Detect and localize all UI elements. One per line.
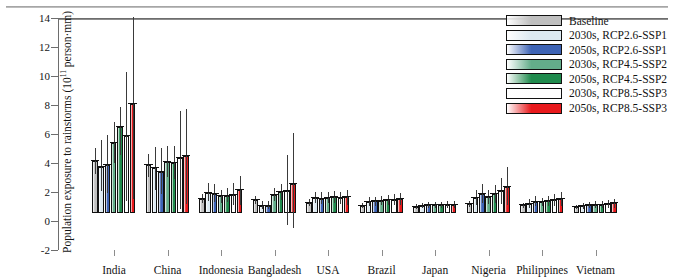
mean-marker bbox=[556, 198, 564, 199]
legend-label: Baseline bbox=[569, 15, 609, 27]
x-axis-label: Philippines bbox=[516, 264, 568, 276]
legend-item[interactable]: 2050s, RCP2.6-SSP1 bbox=[506, 43, 670, 56]
y-axis-title: Population exposure to rainstorms (1011 … bbox=[59, 0, 73, 278]
mean-marker bbox=[144, 164, 152, 165]
mean-marker bbox=[150, 167, 158, 168]
y-tick bbox=[51, 192, 58, 193]
y-axis-title-prefix: Population exposure to rainstorms (10 bbox=[61, 77, 73, 253]
error-bar bbox=[293, 133, 294, 228]
error-bar bbox=[126, 72, 127, 202]
legend-label: 2050s, RCP4.5-SSP2 bbox=[569, 73, 667, 85]
x-axis-label: China bbox=[154, 264, 181, 276]
x-axis-label: Bangladesh bbox=[248, 264, 302, 276]
legend-swatch bbox=[506, 73, 562, 84]
y-tick-label: 12 bbox=[24, 42, 50, 53]
mean-marker bbox=[91, 160, 99, 161]
x-tick bbox=[542, 250, 543, 256]
legend-swatch bbox=[506, 44, 562, 55]
mean-marker bbox=[235, 189, 243, 190]
legend-item[interactable]: Baseline bbox=[506, 14, 670, 27]
legend-label: 2030s, RCP8.5-SSP3 bbox=[569, 87, 667, 99]
x-axis-label: Brazil bbox=[367, 264, 395, 276]
legend-label: 2050s, RCP8.5-SSP3 bbox=[569, 102, 667, 114]
bar-group bbox=[467, 18, 511, 213]
y-tick-label: -2 bbox=[24, 245, 50, 256]
bar-group bbox=[360, 18, 404, 213]
y-tick-label: 4 bbox=[24, 158, 50, 169]
error-bar bbox=[240, 176, 241, 205]
y-tick-label: 8 bbox=[24, 100, 50, 111]
y-axis-title-suffix: person·mm) bbox=[61, 11, 73, 70]
x-axis-label: USA bbox=[317, 264, 340, 276]
mean-marker bbox=[289, 183, 297, 184]
error-bar bbox=[133, 17, 134, 200]
bar-group bbox=[146, 18, 190, 213]
y-tick-label: 0 bbox=[24, 216, 50, 227]
y-tick-label: 14 bbox=[24, 13, 50, 24]
bar-group bbox=[306, 18, 350, 213]
mean-marker bbox=[610, 202, 618, 203]
y-tick bbox=[51, 76, 58, 77]
legend-swatch bbox=[506, 88, 562, 99]
y-tick bbox=[51, 250, 58, 251]
x-axis-label: India bbox=[102, 264, 126, 276]
y-tick-label: 6 bbox=[24, 129, 50, 140]
error-bar bbox=[394, 194, 395, 205]
bar-group bbox=[199, 18, 243, 213]
x-axis-label: Nigeria bbox=[471, 264, 505, 276]
y-tick bbox=[51, 105, 58, 106]
mean-marker bbox=[210, 193, 218, 194]
mean-marker bbox=[342, 196, 350, 197]
mean-marker bbox=[182, 155, 190, 156]
legend-item[interactable]: 2030s, RCP2.6-SSP1 bbox=[506, 29, 670, 42]
mean-marker bbox=[478, 193, 486, 194]
y-tick bbox=[51, 221, 58, 222]
x-tick bbox=[114, 250, 115, 256]
legend-label: 2030s, RCP2.6-SSP1 bbox=[569, 29, 667, 41]
legend-swatch bbox=[506, 59, 562, 70]
x-axis-label: Indonesia bbox=[199, 264, 244, 276]
legend-swatch bbox=[506, 15, 562, 26]
y-tick-label: 10 bbox=[24, 71, 50, 82]
y-axis-line bbox=[58, 18, 59, 250]
error-bar bbox=[120, 107, 121, 155]
legend-item[interactable]: 2030s, RCP4.5-SSP2 bbox=[506, 58, 670, 71]
bar-group bbox=[253, 18, 297, 213]
mean-marker bbox=[251, 199, 259, 200]
error-bar bbox=[501, 178, 502, 204]
y-tick bbox=[51, 134, 58, 135]
mean-marker bbox=[449, 204, 457, 205]
error-bar bbox=[95, 148, 96, 173]
x-tick bbox=[275, 250, 276, 256]
x-tick bbox=[596, 250, 597, 256]
x-tick bbox=[382, 250, 383, 256]
x-tick bbox=[168, 250, 169, 256]
legend-item[interactable]: 2030s, RCP8.5-SSP3 bbox=[506, 87, 670, 100]
x-tick bbox=[221, 250, 222, 256]
legend-item[interactable]: 2050s, RCP8.5-SSP3 bbox=[506, 101, 670, 114]
legend-item[interactable]: 2050s, RCP4.5-SSP2 bbox=[506, 72, 670, 85]
y-axis-title-exponent: 11 bbox=[59, 70, 68, 77]
mean-marker bbox=[128, 103, 136, 104]
plot-area: Population exposure to rainstorms (1011 … bbox=[58, 18, 536, 250]
bar-group bbox=[92, 18, 136, 213]
error-bar bbox=[400, 193, 401, 206]
y-tick-label: 2 bbox=[24, 187, 50, 198]
error-bar bbox=[186, 109, 187, 204]
legend-label: 2030s, RCP4.5-SSP2 bbox=[569, 58, 667, 70]
top-divider bbox=[6, 6, 668, 8]
legend-swatch bbox=[506, 103, 562, 114]
error-bar bbox=[454, 201, 455, 209]
y-tick bbox=[51, 47, 58, 48]
y-tick bbox=[51, 163, 58, 164]
error-bar bbox=[114, 122, 115, 163]
mean-marker bbox=[396, 198, 404, 199]
x-tick bbox=[435, 250, 436, 256]
legend-label: 2050s, RCP2.6-SSP1 bbox=[569, 44, 667, 56]
error-bar bbox=[155, 147, 156, 190]
mean-marker bbox=[116, 126, 124, 127]
legend: Baseline2030s, RCP2.6-SSP12050s, RCP2.6-… bbox=[506, 14, 670, 116]
x-tick bbox=[328, 250, 329, 256]
x-tick bbox=[489, 250, 490, 256]
bar-group bbox=[413, 18, 457, 213]
